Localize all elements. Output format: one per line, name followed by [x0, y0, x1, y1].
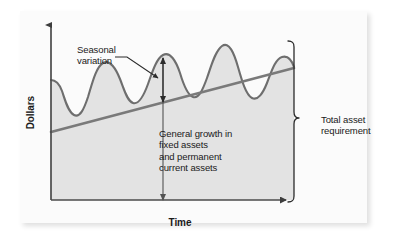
- annotation-general-growth: General growth in fixed assets and perma…: [159, 128, 232, 174]
- x-axis-label: Time: [140, 217, 220, 228]
- annotation-seasonal-variation: Seasonal variation: [77, 44, 116, 67]
- figure-root: Dollars Time Seasonal variation General …: [0, 0, 393, 248]
- annotation-total-asset-requirement: Total asset requirement: [321, 114, 371, 137]
- y-axis-label: Dollars: [25, 83, 36, 143]
- asset-requirement-diagram: [20, 11, 367, 223]
- figure-panel: Dollars Time Seasonal variation General …: [20, 11, 367, 223]
